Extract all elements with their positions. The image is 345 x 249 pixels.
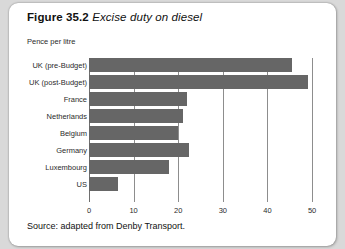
category-axis-labels: UK (pre-Budget)UK (post-Budget)FranceNet… [9,58,87,195]
bar [89,126,178,140]
gridline-50 [312,58,313,202]
x-tick-label: 50 [308,206,316,215]
x-tick-label: 30 [219,206,227,215]
bar [89,92,187,106]
bar [89,75,308,89]
figure-number: Figure 35.2 [27,11,89,23]
x-tick-label: 0 [87,206,91,215]
category-label: US [9,181,87,189]
source-note: Source: adapted from Denby Transport. [27,221,185,231]
bar [89,177,118,191]
bar [89,143,189,157]
x-tick-label: 20 [174,206,182,215]
plot-area: 01020304050 [89,58,321,195]
bar [89,160,169,174]
category-label: Belgium [9,130,87,138]
figure-caption: Excise duty on diesel [92,11,202,23]
category-label: France [9,96,87,104]
bar-chart: UK (pre-Budget)UK (post-Budget)FranceNet… [9,53,336,213]
category-label: Germany [9,147,87,155]
bar [89,58,292,72]
x-tick-label: 10 [129,206,137,215]
bar [89,109,183,123]
category-label: Netherlands [9,113,87,121]
figure-panel: Figure 35.2 Excise duty on diesel Pence … [9,3,336,246]
category-label: UK (pre-Budget) [9,62,87,70]
axis-unit-label: Pence per litre [27,37,75,46]
figure-screenshot: Figure 35.2 Excise duty on diesel Pence … [0,0,345,249]
category-label: UK (post-Budget) [9,79,87,87]
page-title: Figure 35.2 Excise duty on diesel [27,11,202,23]
x-tick-label: 40 [263,206,271,215]
category-label: Luxembourg [9,164,87,172]
